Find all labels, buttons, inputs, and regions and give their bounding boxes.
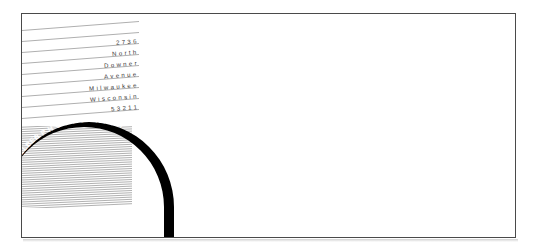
ruled-address-lines [22, 22, 139, 119]
screenshot-canvas: DENNIS FELBER P H O T O G R A P H Y 2736… [0, 0, 536, 251]
letterhead-artwork: DENNIS FELBER P H O T O G R A P H Y [22, 14, 516, 238]
card-drop-shadow [23, 239, 518, 242]
letterhead-card: DENNIS FELBER P H O T O G R A P H Y 2736… [21, 13, 516, 238]
